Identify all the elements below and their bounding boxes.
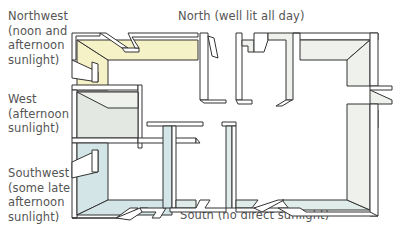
southwest-room — [72, 143, 172, 220]
west-room — [72, 90, 200, 143]
south-room — [147, 104, 378, 216]
floor-plan — [0, 0, 398, 231]
